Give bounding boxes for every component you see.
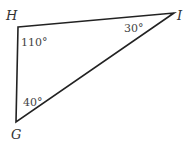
vertex-label-g: G <box>11 127 21 142</box>
angle-label-i: 30° <box>124 22 144 35</box>
angle-label-h: 110° <box>21 36 48 49</box>
vertex-label-i: I <box>176 8 183 23</box>
angle-label-g: 40° <box>23 96 43 109</box>
triangle-diagram: H I G 110° 30° 40° <box>0 0 190 145</box>
vertex-label-h: H <box>5 8 18 23</box>
